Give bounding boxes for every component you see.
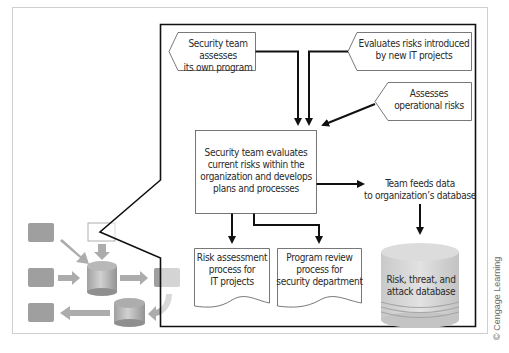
copyright-credit: © Cengage Learning bbox=[492, 257, 502, 340]
feed-label: Team feeds data to organization’s databa… bbox=[357, 178, 483, 202]
doc-risk-assessment: Risk assessment process for IT projects bbox=[194, 252, 270, 288]
note-own-program: Security team assesses its own program bbox=[180, 38, 256, 74]
note-operational-risks: Assesses operational risks bbox=[386, 88, 472, 112]
note-new-it-projects: Evaluates risks introduced by new IT pro… bbox=[356, 38, 472, 62]
doc-program-review: Program review process for security depa… bbox=[276, 252, 363, 288]
center-box-text: Security team evaluates current risks wi… bbox=[195, 147, 317, 195]
database-label: Risk, threat, and attack database bbox=[383, 274, 459, 298]
